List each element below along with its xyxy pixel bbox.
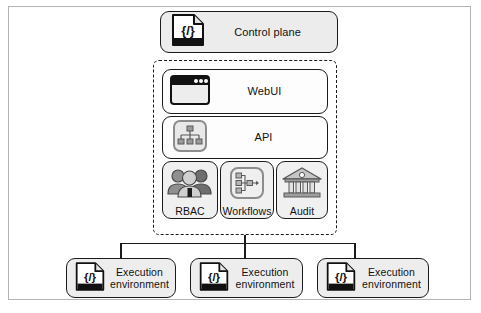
workflows-node[interactable]: Workflows bbox=[220, 161, 274, 219]
svg-text:{/}: {/} bbox=[181, 23, 195, 38]
exec-label-line1: Execution bbox=[116, 266, 163, 278]
control-plane-component-group: WebUI API bbox=[153, 60, 337, 235]
api-node[interactable]: API bbox=[162, 116, 328, 159]
webui-label: WebUI bbox=[212, 85, 327, 98]
control-plane-label: Control plane bbox=[206, 26, 337, 39]
code-document-icon: {/} bbox=[198, 261, 230, 296]
webui-node[interactable]: WebUI bbox=[162, 69, 328, 114]
bank-building-icon bbox=[281, 166, 323, 204]
control-plane-node[interactable]: {/} Control plane bbox=[160, 11, 338, 53]
rbac-node[interactable]: RBAC bbox=[162, 161, 218, 219]
architecture-diagram: {/} Control plane WebUI bbox=[0, 0, 481, 313]
audit-label: Audit bbox=[290, 205, 314, 217]
execution-environment-node[interactable]: {/} Execution environment bbox=[317, 258, 429, 298]
audit-node[interactable]: Audit bbox=[276, 161, 328, 219]
connector-drop-left bbox=[120, 243, 122, 259]
exec-label-line1: Execution bbox=[368, 266, 415, 278]
svg-text:{/}: {/} bbox=[335, 270, 348, 282]
exec-label-line2: environment bbox=[362, 278, 421, 290]
exec-label-line1: Execution bbox=[241, 266, 288, 278]
code-document-icon: {/} bbox=[325, 261, 357, 296]
flowchart-icon bbox=[227, 166, 267, 204]
exec-label-line2: environment bbox=[236, 278, 295, 290]
browser-window-icon bbox=[168, 72, 212, 112]
exec-label-line2: environment bbox=[110, 278, 169, 290]
execution-environment-label: Execution environment bbox=[357, 266, 428, 291]
rbac-label: RBAC bbox=[175, 205, 205, 217]
connector-bus bbox=[120, 243, 356, 245]
execution-environment-node[interactable]: {/} Execution environment bbox=[66, 258, 176, 298]
svg-text:{/}: {/} bbox=[208, 270, 221, 282]
user-group-icon bbox=[167, 166, 213, 204]
connector-drop-right bbox=[354, 243, 356, 259]
connector-drop-middle bbox=[244, 243, 246, 259]
execution-environment-node[interactable]: {/} Execution environment bbox=[190, 258, 303, 298]
code-document-icon: {/} bbox=[170, 13, 206, 51]
svg-text:{/}: {/} bbox=[84, 270, 97, 282]
hierarchy-chart-icon bbox=[168, 118, 212, 158]
api-label: API bbox=[212, 131, 327, 144]
execution-environment-label: Execution environment bbox=[106, 266, 175, 291]
code-document-icon: {/} bbox=[74, 261, 106, 296]
execution-environment-label: Execution environment bbox=[230, 266, 302, 291]
workflows-label: Workflows bbox=[222, 205, 271, 217]
